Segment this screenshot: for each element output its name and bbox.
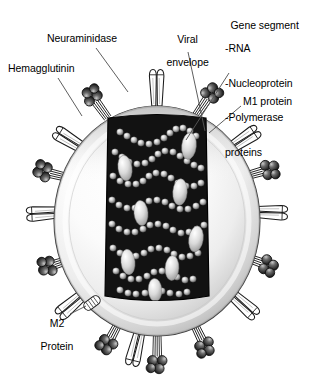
label-gene-segment-polymerase: -Polymerase <box>219 112 299 124</box>
label-gene-segment-nucleoprotein: -Nucleoprotein <box>219 78 299 90</box>
label-viral-envelope-line2: envelope <box>166 56 208 68</box>
virus-core <box>105 115 209 302</box>
label-viral-envelope: Viral envelope <box>155 22 209 80</box>
influenza-virus-diagram: Neuraminidase Hemagglutinin Viral envelo… <box>0 0 314 389</box>
label-gene-segment-proteins: proteins <box>219 147 299 159</box>
label-gene-segment-title: Gene segment <box>230 19 298 31</box>
label-neuraminidase: Neuraminidase <box>47 33 117 45</box>
leader-neuraminidase <box>96 48 128 92</box>
label-m1-protein: M1 protein <box>243 96 292 108</box>
leader-hemagglutinin <box>58 78 82 116</box>
label-viral-envelope-line1: Viral <box>177 33 198 45</box>
label-m2-protein-line1: M2 <box>50 317 65 329</box>
label-m2-protein: M2 Protein <box>29 306 73 364</box>
label-gene-segment-rna: -RNA <box>219 43 299 55</box>
label-hemagglutinin: Hemagglutinin <box>8 63 74 75</box>
label-m2-protein-line2: Protein <box>40 340 73 352</box>
